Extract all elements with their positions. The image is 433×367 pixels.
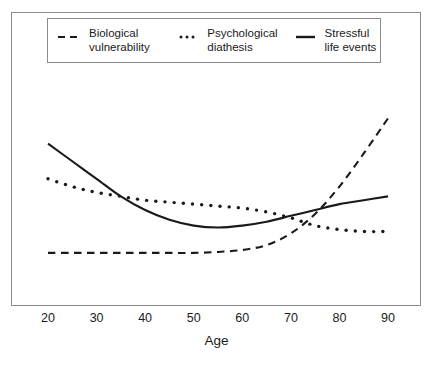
series-stressful-life-events: [48, 144, 388, 228]
x-axis-title: Age: [0, 333, 433, 348]
x-tick-label-70: 70: [271, 311, 311, 325]
series-biological-vulnerability: [48, 118, 388, 253]
x-tick-label-20: 20: [28, 311, 68, 325]
x-tick-label-60: 60: [222, 311, 262, 325]
x-tick-label-90: 90: [368, 311, 408, 325]
x-tick-label-30: 30: [77, 311, 117, 325]
chart-series-group: [46, 118, 388, 253]
x-tick-label-40: 40: [125, 311, 165, 325]
chart-figure: Biological vulnerability Psychological d…: [0, 0, 433, 367]
x-tick-label-80: 80: [319, 311, 359, 325]
x-tick-label-50: 50: [174, 311, 214, 325]
x-axis-tick-labels: 2030405060708090: [0, 311, 433, 327]
